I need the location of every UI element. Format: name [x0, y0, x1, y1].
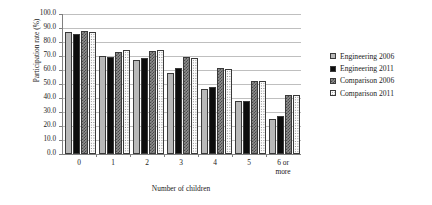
- x-tick-mark: [164, 154, 165, 157]
- bar: [225, 69, 232, 154]
- x-tick-mark: [130, 154, 131, 157]
- x-tick-label: 4: [198, 159, 232, 176]
- bar: [183, 57, 190, 154]
- bar: [191, 58, 198, 154]
- bars-layer: [63, 14, 301, 154]
- x-tick-label-line2: more: [275, 167, 290, 176]
- bar: [243, 101, 250, 154]
- legend-item: Comparison 2006: [330, 75, 394, 87]
- bar: [73, 34, 80, 154]
- bar: [99, 56, 106, 154]
- bar: [293, 95, 300, 154]
- bar: [133, 60, 140, 154]
- bar: [277, 116, 284, 154]
- y-tick-label: 80.0: [43, 38, 56, 45]
- y-tick-label: 50.0: [43, 80, 56, 87]
- y-tick-label: 60.0: [43, 66, 56, 73]
- y-tick-label: 90.0: [43, 24, 56, 31]
- bar: [89, 32, 96, 154]
- bar-group: [63, 14, 97, 154]
- bar-group: [267, 14, 301, 154]
- legend-swatch-icon: [330, 78, 336, 84]
- y-tick-label: 0.0: [47, 150, 56, 157]
- x-tick-label: 6 ormore: [266, 159, 300, 176]
- bar: [175, 68, 182, 154]
- y-tick-label: 30.0: [43, 108, 56, 115]
- bar: [217, 68, 224, 154]
- bar: [201, 89, 208, 154]
- bar-group: [233, 14, 267, 154]
- legend-swatch-icon: [330, 66, 336, 72]
- x-axis-title: Number of children: [62, 184, 300, 193]
- legend-label: Comparison 2006: [340, 76, 394, 85]
- legend-swatch-icon: [330, 90, 336, 96]
- x-tick-label: 2: [130, 159, 164, 176]
- bar: [115, 52, 122, 154]
- bar: [285, 95, 292, 154]
- participation-rate-bar-chart: 100.090.080.070.060.050.040.030.020.010.…: [0, 0, 432, 205]
- legend-item: Engineering 2006: [330, 50, 394, 62]
- y-tick-label: 40.0: [43, 94, 56, 101]
- y-tick-label: 100.0: [40, 10, 56, 17]
- x-tick-label: 0: [62, 159, 96, 176]
- bar: [167, 73, 174, 154]
- legend-item: Engineering 2011: [330, 62, 394, 74]
- legend-item: Comparison 2011: [330, 87, 394, 99]
- legend: Engineering 2006Engineering 2011Comparis…: [330, 50, 394, 100]
- x-tick-mark: [96, 154, 97, 157]
- y-axis-title: Participation rate (%): [32, 11, 41, 91]
- bar: [65, 32, 72, 154]
- bar: [141, 58, 148, 154]
- y-tick-label: 70.0: [43, 52, 56, 59]
- bar-group: [131, 14, 165, 154]
- bar: [235, 101, 242, 154]
- bar: [259, 81, 266, 154]
- bar: [107, 57, 114, 154]
- bar: [81, 31, 88, 154]
- x-tick-label: 1: [96, 159, 130, 176]
- legend-label: Comparison 2011: [340, 89, 394, 98]
- y-tick-label: 20.0: [43, 122, 56, 129]
- bar: [251, 81, 258, 154]
- plot-area: [62, 14, 301, 155]
- x-tick-mark: [232, 154, 233, 157]
- bar-group: [165, 14, 199, 154]
- y-axis: 100.090.080.070.060.050.040.030.020.010.…: [0, 0, 60, 156]
- bar: [269, 119, 276, 154]
- bar: [209, 87, 216, 154]
- x-tick-mark: [266, 154, 267, 157]
- x-tick-label: 5: [232, 159, 266, 176]
- x-axis: 0123456 ormore: [62, 159, 300, 176]
- x-tick-label: 3: [164, 159, 198, 176]
- bar: [149, 51, 156, 154]
- bar-group: [199, 14, 233, 154]
- bar: [123, 50, 130, 154]
- y-tick-label: 10.0: [43, 136, 56, 143]
- x-tick-mark: [198, 154, 199, 157]
- legend-swatch-icon: [330, 53, 336, 59]
- bar: [157, 50, 164, 154]
- legend-label: Engineering 2006: [340, 52, 394, 61]
- legend-label: Engineering 2011: [340, 64, 394, 73]
- bar-group: [97, 14, 131, 154]
